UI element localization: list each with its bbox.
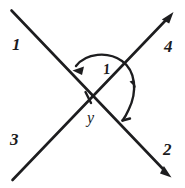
line-1-2-stroke: [12, 11, 164, 170]
label-angle-1: 1: [102, 62, 111, 78]
label-ray-4: 4: [164, 38, 173, 55]
label-ray-3: 3: [10, 131, 19, 148]
line-1-2: [12, 11, 172, 178]
label-ray-1: 1: [12, 36, 21, 53]
geometry-figure: 1 4 3 2 y 1: [0, 0, 185, 188]
label-angle-y: y: [87, 110, 94, 126]
label-ray-2: 2: [163, 141, 172, 158]
arrowhead-arc-start: [73, 67, 85, 76]
figure-canvas: [0, 0, 185, 188]
